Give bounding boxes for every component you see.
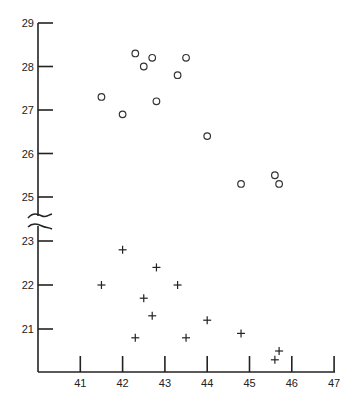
plus-marker	[131, 334, 139, 342]
y-tick-label: 26	[22, 148, 34, 160]
x-tick-label: 42	[116, 377, 128, 389]
ticks: 212223252627282941424344454647	[22, 17, 340, 389]
plus-marker	[203, 316, 211, 324]
x-tick-label: 45	[243, 377, 255, 389]
x-tick-label: 46	[286, 377, 298, 389]
y-tick-label: 21	[22, 323, 34, 335]
axis-break-icon	[28, 214, 52, 218]
plus-marker	[140, 294, 148, 302]
x-tick-label: 44	[201, 377, 213, 389]
x-tick-label: 43	[159, 377, 171, 389]
circle-marker	[140, 63, 147, 70]
plus-marker	[97, 281, 105, 289]
y-tick-label: 23	[22, 235, 34, 247]
circle-marker	[149, 55, 156, 62]
circle-marker	[272, 172, 279, 179]
x-tick-label: 47	[328, 377, 340, 389]
axis-break-icon	[28, 224, 52, 229]
circle-marker	[119, 111, 126, 118]
circle-marker	[276, 181, 283, 188]
y-tick-label: 22	[22, 279, 34, 291]
circle-marker	[98, 94, 105, 101]
axes	[28, 23, 335, 372]
circle-marker	[238, 181, 245, 188]
plus-marker	[174, 281, 182, 289]
plus-marker	[237, 329, 245, 337]
x-tick-label: 41	[74, 377, 86, 389]
y-tick-label: 27	[22, 104, 34, 116]
y-tick-label: 29	[22, 17, 34, 29]
circle-marker	[153, 98, 160, 105]
scatter-chart: 212223252627282941424344454647	[0, 0, 358, 404]
plus-marker	[271, 356, 279, 364]
data-points	[97, 50, 283, 364]
plus-marker	[148, 312, 156, 320]
circle-marker	[204, 133, 211, 140]
plus-marker	[275, 347, 283, 355]
plus-marker	[182, 334, 190, 342]
circle-marker	[183, 55, 190, 62]
y-tick-label: 25	[22, 191, 34, 203]
circle-marker	[174, 72, 181, 79]
y-tick-label: 28	[22, 61, 34, 73]
plus-marker	[119, 246, 127, 254]
plus-marker	[152, 263, 160, 271]
circle-marker	[132, 50, 139, 57]
